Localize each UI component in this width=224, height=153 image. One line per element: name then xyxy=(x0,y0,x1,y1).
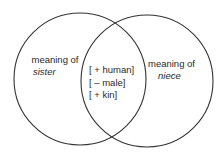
left-label-line1: meaning of xyxy=(26,54,84,66)
right-set-label: meaning of niece xyxy=(148,58,206,82)
feature-human: [ + human] xyxy=(89,64,134,77)
left-label-line2: sister xyxy=(26,66,84,78)
right-label-line2: niece xyxy=(148,70,206,82)
intersection-features: [ + human] [ – male] [ + kin] xyxy=(89,64,134,102)
left-set-label: meaning of sister xyxy=(26,54,84,78)
feature-kin: [ + kin] xyxy=(89,89,134,102)
venn-diagram: meaning of sister meaning of niece [ + h… xyxy=(0,0,224,153)
feature-male: [ – male] xyxy=(89,77,134,90)
right-label-line1: meaning of xyxy=(148,58,206,70)
